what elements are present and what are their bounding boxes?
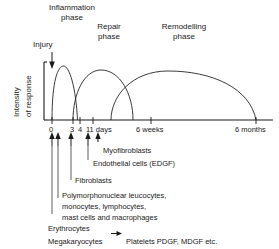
x-tick-label-6-weeks: 6 weeks — [136, 125, 164, 135]
phase-label-remodelling-line2: phase — [173, 32, 195, 41]
legend-label-fibroblasts: Fibroblasts — [75, 176, 112, 187]
injury-arrow-head — [49, 62, 55, 70]
y-axis-title-line2: of response — [24, 55, 34, 117]
x-tick-label-3: 3 — [70, 125, 74, 135]
injury-label: Injury — [33, 40, 53, 50]
phase-label-inflammation-line1: Inflammation — [49, 3, 95, 12]
phase-label-repair-line1: Repair — [97, 22, 121, 31]
legend-label-megakaryocytes: Megakaryocytes — [48, 237, 103, 248]
phase-label-remodelling: Remodelling phase — [146, 22, 222, 42]
x-tick-label-0: 0 — [49, 125, 53, 135]
legend-label-endothelial-cells: Endothelial cells (EDGF) — [93, 159, 175, 170]
legend-label-leucocytes-line3: mast cells and macrophages — [62, 213, 157, 224]
phase-label-remodelling-line1: Remodelling — [162, 22, 206, 31]
phase-label-repair-line2: phase — [98, 32, 120, 41]
legend-label-leucocytes-line2: monocytes, lymphocytes, — [62, 202, 146, 213]
legend-label-myofibroblasts: Myofibroblasts — [103, 146, 151, 157]
phase-label-repair: Repair phase — [80, 22, 138, 42]
x-tick-label-6-months: 6 months — [235, 125, 266, 135]
annotation-arrow-2-head — [55, 132, 60, 139]
legend-label-leucocytes-line1: Polymorphonuclear leucocytes, — [62, 191, 166, 202]
phase-label-inflammation-line2: phase — [61, 13, 83, 22]
wound-healing-phases-figure: Inflammation phase Repair phase Remodell… — [0, 0, 279, 249]
curve-repair-phase — [73, 70, 133, 120]
x-tick-label-11-days: 11 days — [86, 125, 112, 135]
y-axis-title-line1: Intensity — [12, 55, 22, 117]
x-tick-label-4: 4 — [78, 125, 82, 135]
megakaryocytes-platelets-arrow-head — [117, 231, 123, 236]
legend-label-platelets: Platelets PDGF, MDGF etc. — [126, 237, 217, 248]
phase-label-inflammation: Inflammation phase — [27, 3, 117, 23]
legend-label-erythrocytes: Erythrocytes — [48, 224, 90, 235]
